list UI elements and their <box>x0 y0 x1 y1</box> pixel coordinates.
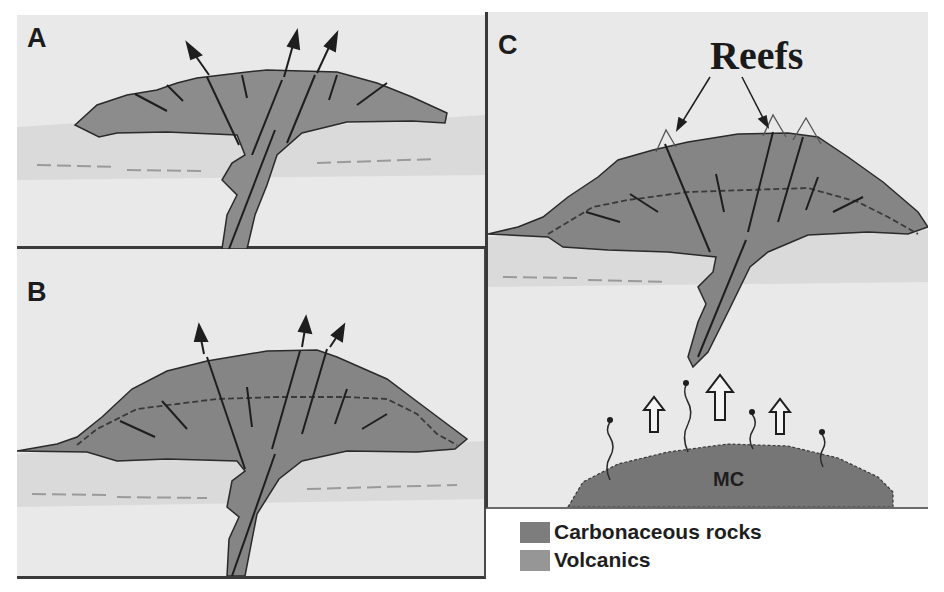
legend-label: Carbonaceous rocks <box>554 520 762 544</box>
legend-item-volcanics: Volcanics <box>520 546 762 574</box>
panel-c-drawing <box>488 12 928 507</box>
legend-label: Volcanics <box>554 548 651 572</box>
legend: Carbonaceous rocks Volcanics <box>520 518 762 574</box>
panel-c: C Reefs MC <box>485 12 928 509</box>
swatch-carbonaceous <box>520 522 550 543</box>
panel-label-c: C <box>498 30 518 61</box>
panel-label-b: B <box>27 277 47 308</box>
mc-intrusion-label: MC <box>713 468 744 491</box>
legend-item-carbonaceous: Carbonaceous rocks <box>520 518 762 546</box>
panel-a: A <box>17 15 486 249</box>
swatch-volcanics <box>520 550 550 571</box>
reefs-annotation: Reefs <box>710 32 803 79</box>
panel-a-drawing <box>17 15 486 249</box>
panel-label-a: A <box>27 23 47 54</box>
panel-b-drawing <box>17 249 484 576</box>
panel-b: B <box>17 249 486 579</box>
